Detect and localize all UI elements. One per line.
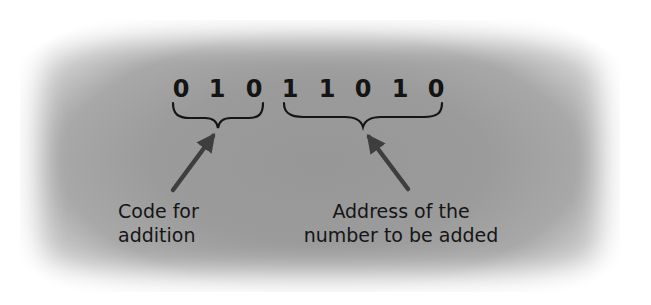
opcode-label-line-2: addition <box>118 223 199 247</box>
arrow-icon-opcode <box>173 136 213 190</box>
opcode-label: Code for addition <box>118 199 199 247</box>
arrow-icon-address <box>369 137 408 189</box>
address-label-line-1: Address of the <box>286 199 516 223</box>
opcode-label-line-1: Code for <box>118 199 199 223</box>
address-label-line-2: number to be added <box>286 223 516 247</box>
brace-icon-address <box>284 103 442 127</box>
address-label: Address of the number to be added <box>286 199 516 247</box>
diagram-graphics <box>0 0 651 305</box>
brace-icon-opcode <box>173 103 263 128</box>
